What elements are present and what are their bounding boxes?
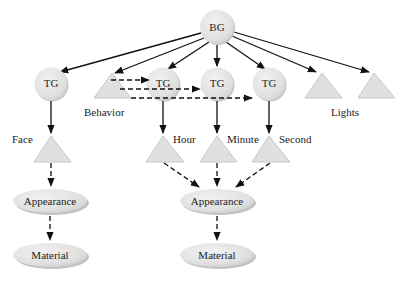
edge-bg-tg-hour xyxy=(168,42,209,69)
node-tg-face: TG xyxy=(35,68,69,102)
node-tg-face-label: TG xyxy=(44,77,59,89)
node-appearance-right: Appearance xyxy=(180,189,256,215)
edge-bg-tg-face xyxy=(60,33,201,72)
node-face xyxy=(34,136,71,162)
node-tg-hour: TG xyxy=(147,68,181,102)
scene-graph-diagram: BG TG Behavior TG TG TG Lights xyxy=(0,0,406,282)
node-light2 xyxy=(358,73,395,98)
node-material-right-label: Material xyxy=(198,249,235,261)
node-bg: BG xyxy=(200,10,235,45)
node-bg-label: BG xyxy=(209,21,224,33)
node-light1 xyxy=(305,73,342,98)
node-minute-label: Minute xyxy=(227,133,259,145)
node-material-left-label: Material xyxy=(31,249,68,261)
material-edges xyxy=(50,216,217,240)
node-tg-hour-label: TG xyxy=(156,77,171,89)
node-material-right: Material xyxy=(180,243,256,269)
node-tg-second: TG xyxy=(253,68,287,102)
lights-label: Lights xyxy=(331,106,359,118)
edge-hour-appearance xyxy=(164,163,199,187)
node-second-label: Second xyxy=(279,133,312,145)
node-tg-minute: TG xyxy=(201,68,235,102)
node-appearance-left-label: Appearance xyxy=(24,195,77,207)
edge-bg-tg-second xyxy=(226,42,265,69)
appearance-edges xyxy=(51,163,270,187)
edge-second-appearance xyxy=(236,163,270,187)
node-tg-minute-label: TG xyxy=(210,77,225,89)
node-behavior-label: Behavior xyxy=(84,106,125,118)
node-appearance-left: Appearance xyxy=(13,189,89,215)
node-material-left: Material xyxy=(13,243,89,269)
edge-bg-behavior xyxy=(115,38,204,73)
node-appearance-right-label: Appearance xyxy=(191,195,244,207)
node-behavior xyxy=(94,73,131,98)
node-face-label: Face xyxy=(12,133,33,145)
edge-bg-light1 xyxy=(232,36,316,72)
node-hour-label: Hour xyxy=(173,133,196,145)
node-tg-second-label: TG xyxy=(262,77,277,89)
